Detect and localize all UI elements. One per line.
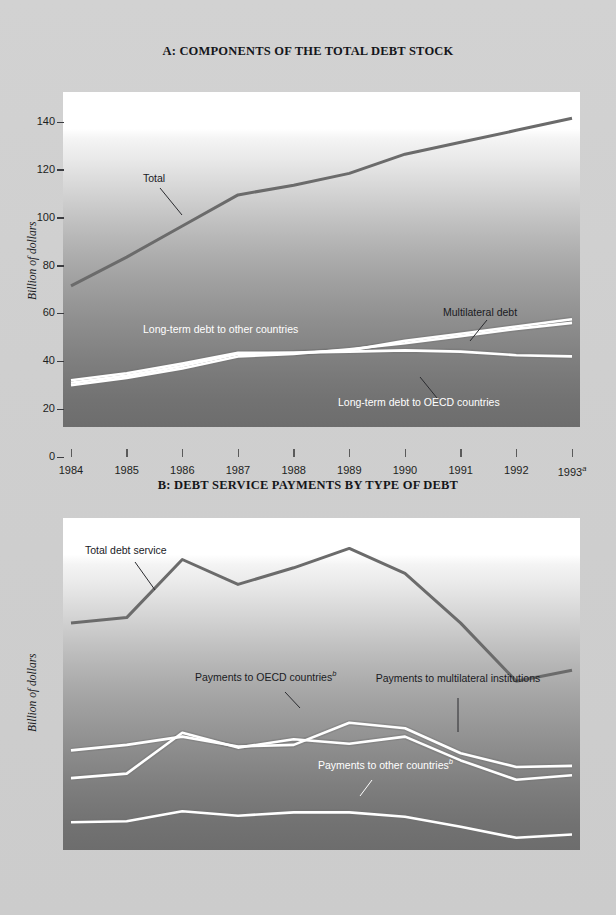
- y-tick-label: 100: [21, 211, 55, 223]
- y-tick-label: 120: [21, 163, 55, 175]
- x-tick-mark: [349, 449, 351, 457]
- x-tick-mark: [238, 449, 240, 457]
- y-tick-mark: [57, 217, 64, 219]
- panel-a-label-oecd: Long-term debt to OECD countries: [338, 396, 500, 408]
- panel-b-label-other: Payments to other countriesb: [318, 756, 438, 771]
- series-total-debt-service: [71, 548, 572, 681]
- y-tick-mark: [57, 169, 64, 171]
- x-tick-mark: [293, 449, 295, 457]
- series-total: [71, 118, 572, 285]
- y-tick-label: 40: [21, 354, 55, 366]
- figure-page: A: COMPONENTS OF THE TOTAL DEBT STOCK Bi…: [0, 0, 616, 915]
- panel-b-label-oecd-text: Payments to OECD countries: [195, 671, 332, 683]
- panel-a: A: COMPONENTS OF THE TOTAL DEBT STOCK Bi…: [0, 30, 616, 460]
- panel-b-label-total: Total debt service: [85, 544, 167, 556]
- panel-a-label-total: Total: [143, 172, 165, 184]
- y-tick-label: 80: [21, 259, 55, 271]
- y-tick-mark: [57, 122, 64, 124]
- y-tick-mark: [57, 265, 64, 267]
- panel-b-y-axis-label: Billion of dollars: [26, 653, 38, 732]
- panel-a-title: A: COMPONENTS OF THE TOTAL DEBT STOCK: [0, 44, 616, 59]
- x-tick-mark: [572, 449, 574, 457]
- x-tick-mark: [516, 449, 518, 457]
- y-tick-label: 60: [21, 306, 55, 318]
- panel-a-label-other-countries: Long-term debt to other countries: [143, 323, 298, 335]
- panel-a-plot-area: [63, 92, 580, 427]
- panel-b-label-oecd: Payments to OECD countriesb: [195, 668, 315, 683]
- y-tick-mark: [57, 361, 64, 363]
- panel-b-title: B: DEBT SERVICE PAYMENTS BY TYPE OF DEBT: [0, 478, 616, 493]
- x-tick-mark: [182, 449, 184, 457]
- y-tick-mark: [57, 409, 64, 411]
- panel-a-label-multilateral: Multilateral debt: [443, 306, 517, 318]
- panel-b-label-other-text: Payments to other countries: [318, 759, 449, 771]
- panel-b: B: DEBT SERVICE PAYMENTS BY TYPE OF DEBT…: [0, 470, 616, 900]
- x-tick-mark: [460, 449, 462, 457]
- panel-b-plot-area: [63, 518, 580, 850]
- x-tick-mark: [405, 449, 407, 457]
- y-tick-mark: [57, 313, 64, 315]
- panel-b-label-multilateral: Payments to multilateral institutions: [373, 672, 543, 684]
- y-tick-mark: [57, 457, 64, 459]
- y-tick-label: 0: [21, 450, 55, 462]
- panel-b-lines: [63, 518, 580, 850]
- panel-a-lines: [63, 92, 580, 427]
- x-tick-mark: [71, 449, 73, 457]
- panel-b-label-oecd-superscript: b: [332, 669, 336, 678]
- y-tick-label: 140: [21, 115, 55, 127]
- y-tick-label: 20: [21, 402, 55, 414]
- panel-b-label-other-superscript: b: [449, 757, 453, 766]
- x-tick-mark: [126, 449, 128, 457]
